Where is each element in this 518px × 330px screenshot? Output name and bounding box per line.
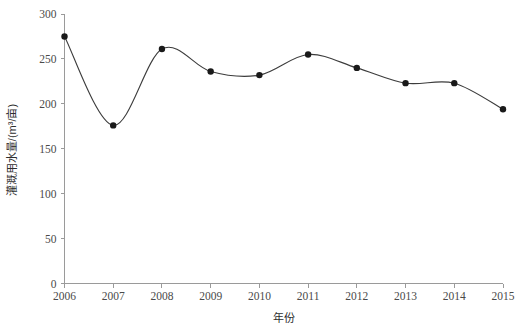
- y-tick-label: 200: [39, 98, 57, 110]
- x-tick-label: 2012: [345, 290, 368, 302]
- y-axis-title: 灌溉用水量/(m³/亩): [5, 104, 18, 196]
- x-tick-label: 2009: [199, 290, 222, 302]
- y-tick-label: 100: [39, 188, 57, 200]
- y-tick-label: 250: [39, 53, 57, 65]
- x-tick-label: 2010: [248, 290, 271, 302]
- data-point-marker: [451, 80, 457, 86]
- data-point-marker: [110, 122, 116, 128]
- x-tick-label: 2013: [394, 290, 417, 302]
- data-point-marker: [305, 51, 311, 57]
- x-tick-label: 2015: [492, 290, 515, 302]
- y-tick-label: 0: [51, 278, 57, 290]
- data-point-marker: [354, 65, 360, 71]
- chart-container: 050100150200250300 200620072008200920102…: [0, 0, 518, 330]
- y-tick-label: 300: [39, 8, 57, 20]
- y-tick-label: 150: [39, 143, 57, 155]
- chart-background: [0, 0, 518, 330]
- data-point-marker: [159, 46, 165, 52]
- x-tick-label: 2007: [102, 290, 125, 302]
- data-point-marker: [256, 72, 262, 78]
- x-tick-label: 2006: [53, 290, 76, 302]
- x-axis-title: 年份: [273, 311, 295, 324]
- data-point-marker: [402, 80, 408, 86]
- x-tick-label: 2014: [443, 290, 466, 302]
- data-point-marker: [207, 68, 213, 74]
- data-point-marker: [500, 106, 506, 112]
- y-tick-label: 50: [45, 233, 57, 245]
- line-chart: 050100150200250300 200620072008200920102…: [0, 0, 518, 330]
- x-tick-label: 2011: [297, 290, 320, 302]
- data-point-marker: [61, 33, 67, 39]
- x-tick-label: 2008: [150, 290, 173, 302]
